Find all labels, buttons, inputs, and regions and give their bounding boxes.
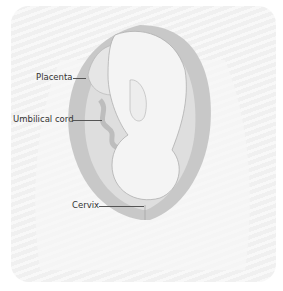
leader-cervix xyxy=(99,206,144,207)
fetus-body xyxy=(108,31,186,199)
label-umbilical-cord: Umbilical cord xyxy=(13,114,74,124)
leader-umbilical-cord xyxy=(72,120,102,121)
label-placenta: Placenta xyxy=(36,72,73,82)
label-cervix: Cervix xyxy=(72,200,99,210)
uterus-illustration xyxy=(0,0,283,291)
leader-placenta xyxy=(73,78,86,79)
